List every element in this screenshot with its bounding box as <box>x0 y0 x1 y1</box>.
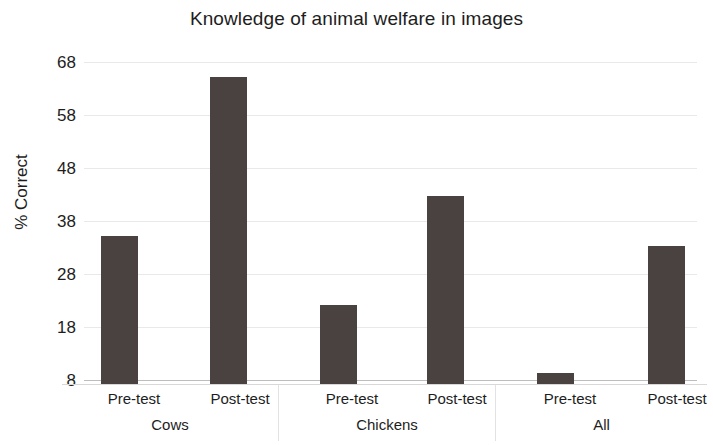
x-group-label-chickens: Chickens <box>279 416 495 433</box>
plot-area <box>84 62 697 384</box>
x-tick-all-pre-test: Pre-test <box>516 390 624 407</box>
bar-cows-pre-test <box>101 236 138 384</box>
bar-chickens-pre-test <box>320 305 357 385</box>
gridline-38 <box>84 221 697 222</box>
x-group-label-cows: Cows <box>62 416 278 433</box>
y-tick-48: 48 <box>36 160 76 177</box>
x-tick-cows-pre-test: Pre-test <box>80 390 188 407</box>
y-tick-38: 38 <box>36 213 76 230</box>
x-tick-chickens-pre-test: Pre-test <box>298 390 406 407</box>
y-tick-68: 68 <box>36 54 76 71</box>
y-tick-18: 18 <box>36 319 76 336</box>
bar-chart: Knowledge of animal welfare in images % … <box>0 0 713 445</box>
x-group-label-all: All <box>496 416 707 433</box>
x-tick-cows-post-test: Post-test <box>182 390 298 407</box>
x-axis-line <box>62 384 707 385</box>
y-tick-58: 58 <box>36 107 76 124</box>
y-axis-label: % Correct <box>12 132 32 252</box>
gridline-48 <box>84 168 697 169</box>
bar-chickens-post-test <box>427 196 464 384</box>
bar-cows-post-test <box>210 77 247 384</box>
gridline-baseline-8 <box>84 380 697 381</box>
y-tick-28: 28 <box>36 266 76 283</box>
x-axis: Pre-test Post-test Pre-test Post-test Pr… <box>62 384 707 442</box>
bar-all-post-test <box>648 246 685 384</box>
gridline-28 <box>84 274 697 275</box>
bar-all-pre-test <box>537 373 574 384</box>
x-tick-all-post-test: Post-test <box>619 390 713 407</box>
gridline-58 <box>84 115 697 116</box>
gridline-18 <box>84 327 697 328</box>
y-axis-tick-labels: 68 58 48 38 28 18 8 <box>30 62 76 384</box>
x-tick-chickens-post-test: Post-test <box>399 390 515 407</box>
gridline-68 <box>84 62 697 63</box>
chart-title: Knowledge of animal welfare in images <box>0 8 713 30</box>
